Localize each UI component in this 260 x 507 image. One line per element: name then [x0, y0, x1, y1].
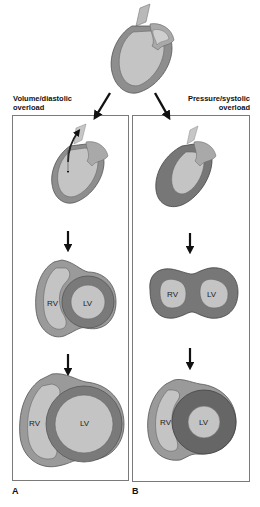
- panel-b-heart-pressure-overload-icon: [156, 126, 216, 207]
- rv-label: RV: [29, 419, 41, 428]
- rv-label: RV: [47, 299, 59, 308]
- arrow-to-panel-a: [96, 93, 110, 116]
- normal-heart-icon: [111, 4, 174, 93]
- panel-b-cross-section-mild: RV LV: [150, 268, 238, 319]
- diagram-canvas: RV LV RV LV RV LV RV LV: [0, 0, 260, 507]
- panel-b-cross-section-severe: RV LV: [148, 379, 236, 460]
- lv-label: LV: [199, 418, 209, 427]
- panel-a-cross-section-severe: RV LV: [20, 374, 124, 467]
- rv-label: RV: [167, 290, 179, 299]
- lv-label: LV: [83, 299, 93, 308]
- lv-label: LV: [207, 290, 217, 299]
- panel-a-cross-section-mild: RV LV: [36, 260, 116, 337]
- arrow-to-panel-b: [155, 93, 168, 116]
- panel-a-heart-volume-overload-icon: [52, 124, 108, 203]
- lv-label: LV: [80, 419, 90, 428]
- rv-label: RV: [160, 418, 172, 427]
